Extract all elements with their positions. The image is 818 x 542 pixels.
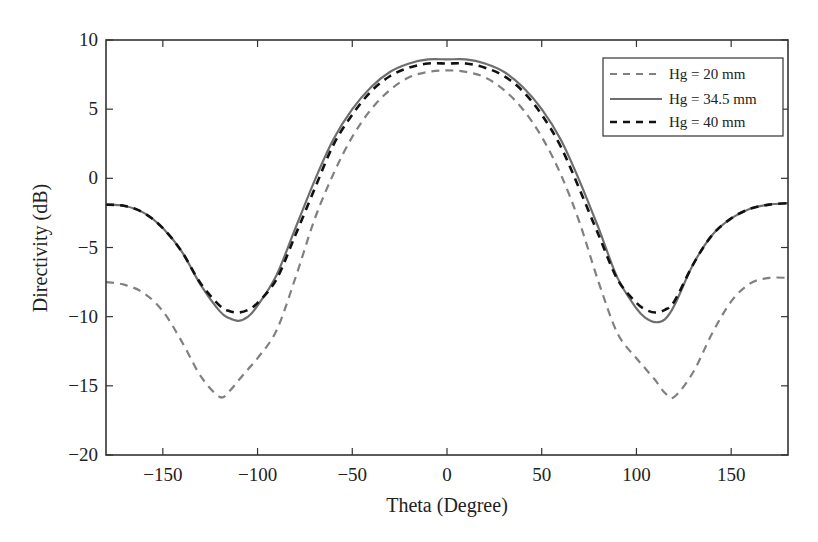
legend-label-20mm: Hg = 20 mm <box>669 66 746 82</box>
x-tick-label: −100 <box>238 464 277 485</box>
y-tick-label: 5 <box>89 98 99 119</box>
y-tick-label: −10 <box>68 306 98 327</box>
y-tick-label: 10 <box>79 29 98 50</box>
y-axis-label: Directivity (dB) <box>29 184 52 312</box>
directivity-chart: −150−100−50050100150 −20−15−10−50510 The… <box>0 0 818 542</box>
y-tick-label: 0 <box>89 167 99 188</box>
x-tick-label: −150 <box>143 464 182 485</box>
y-tick-label: −5 <box>78 237 98 258</box>
x-tick-label: 100 <box>622 464 651 485</box>
legend-label-34-5mm: Hg = 34.5 mm <box>669 91 757 107</box>
legend: Hg = 20 mm Hg = 34.5 mm Hg = 40 mm <box>603 58 783 136</box>
x-tick-label: 150 <box>717 464 746 485</box>
y-tick-label: −20 <box>68 444 98 465</box>
x-tick-label: −50 <box>337 464 367 485</box>
legend-label-40mm: Hg = 40 mm <box>669 114 746 130</box>
y-tick-label: −15 <box>68 375 98 396</box>
x-axis-label: Theta (Degree) <box>386 494 508 517</box>
x-tick-label: 0 <box>442 464 452 485</box>
x-tick-label: 50 <box>532 464 551 485</box>
